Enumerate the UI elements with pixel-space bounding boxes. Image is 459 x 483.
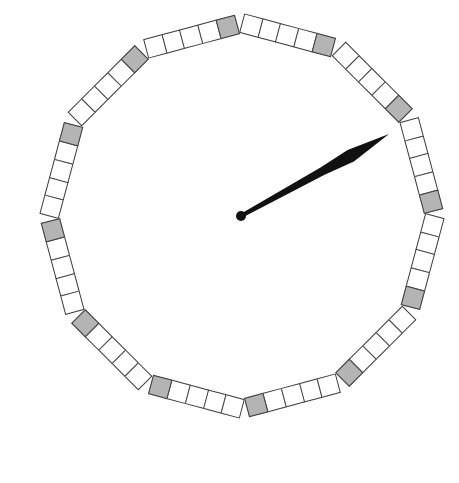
hand-pivot bbox=[236, 211, 246, 221]
clock-hand bbox=[0, 0, 459, 483]
hand-blade bbox=[240, 134, 389, 218]
